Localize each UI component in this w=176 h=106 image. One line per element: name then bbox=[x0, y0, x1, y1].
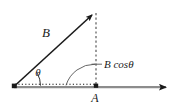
projection-bcos-label: B cosθ bbox=[104, 58, 134, 70]
vector-b-arrow bbox=[15, 15, 93, 86]
vector-a-label: A bbox=[90, 91, 99, 105]
angle-theta-label: θ bbox=[35, 66, 41, 78]
point-a-marker bbox=[94, 84, 98, 88]
projection-indicator-arc bbox=[66, 64, 95, 85]
vector-b-label: B bbox=[42, 25, 50, 40]
vector-diagram-figure: B θ B cosθ A bbox=[0, 0, 176, 106]
vector-diagram-canvas: B θ B cosθ A bbox=[0, 0, 176, 106]
origin-point-marker bbox=[12, 84, 17, 89]
